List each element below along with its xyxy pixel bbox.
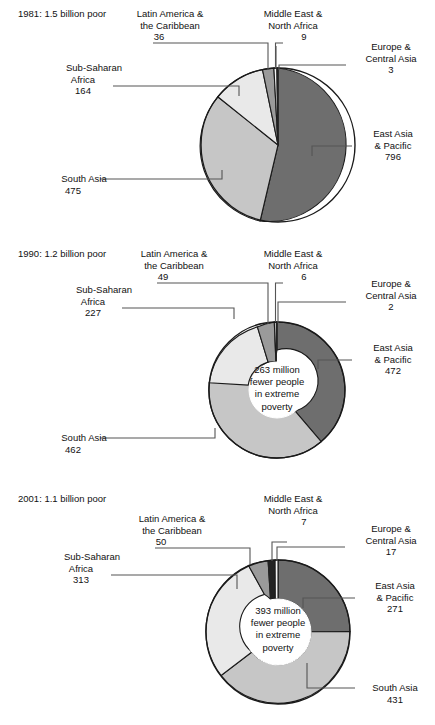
pie-chart-panel-1990: 1990: 1.2 billion poor [0, 240, 435, 485]
label-latin-america-line1-2001: Latin America & [122, 513, 222, 525]
label-south-asia-line1-2001: South Asia [356, 682, 434, 694]
center-note-line2-1990: fewer people [227, 376, 327, 388]
label-latin-america-value-1981: 36 [98, 31, 220, 43]
label-sub-saharan-line2-1981: Africa [26, 74, 140, 86]
label-latin-america-1990: Latin America & the Caribbean 49 [124, 248, 224, 283]
label-sub-saharan-line2-2001: Africa [24, 563, 138, 575]
label-middle-east-line2-1981: North Africa [248, 20, 338, 32]
label-sub-saharan-line1-1990: Sub-Saharan [58, 284, 150, 296]
label-europe-line1-2001: Europe & [348, 523, 434, 535]
label-europe-central-asia-2001: Europe & Central Asia 17 [348, 523, 434, 558]
label-south-asia-1990: South Asia 462 [38, 432, 130, 455]
label-south-asia-1981: South Asia 475 [38, 173, 130, 196]
label-europe-line2-1981: Central Asia [348, 53, 434, 65]
label-east-asia-value-1981: 796 [354, 151, 432, 163]
label-east-asia-value-2001: 271 [356, 603, 434, 615]
pie-chart-panel-1981: 1981: 1.5 billion poor [0, 0, 435, 240]
slice-middle-east-north-africa-2001[interactable] [275, 560, 278, 599]
label-south-asia-value-2001: 431 [356, 694, 434, 706]
label-east-asia-1990: East Asia & Pacific 472 [354, 342, 432, 377]
label-sub-saharan-value-1990: 227 [36, 307, 150, 319]
label-latin-america-line1-1981: Latin America & [120, 8, 220, 20]
label-south-asia-line1-1981: South Asia [38, 173, 130, 185]
label-latin-america-line2-1981: the Caribbean [120, 20, 220, 32]
label-south-asia-2001: South Asia 431 [356, 682, 434, 705]
center-note-line1-1990: 263 million [227, 364, 327, 376]
label-europe-value-1990: 2 [348, 301, 434, 313]
center-note-line2-2001: fewer people [228, 617, 328, 629]
label-latin-america-value-2001: 50 [100, 536, 222, 548]
center-note-line3-2001: in extreme [228, 629, 328, 641]
center-note-line4-2001: poverty [228, 642, 328, 654]
label-middle-east-2001: Middle East & North Africa 7 [248, 493, 338, 528]
label-east-asia-line1-1990: East Asia [354, 342, 432, 354]
label-east-asia-line1-2001: East Asia [356, 580, 434, 592]
center-note-line3-1990: in extreme [227, 388, 327, 400]
label-east-asia-line2-2001: & Pacific [356, 592, 434, 604]
label-europe-line2-2001: Central Asia [348, 535, 434, 547]
label-south-asia-line1-1990: South Asia [38, 432, 130, 444]
label-south-asia-value-1990: 462 [16, 444, 130, 456]
label-east-asia-line2-1981: & Pacific [354, 140, 432, 152]
label-sub-saharan-value-1981: 164 [26, 85, 140, 97]
label-europe-central-asia-1981: Europe & Central Asia 3 [348, 41, 434, 76]
label-sub-saharan-2001: Sub-Saharan Africa 313 [46, 551, 138, 586]
label-sub-saharan-line1-2001: Sub-Saharan [46, 551, 138, 563]
label-middle-east-line1-1981: Middle East & [248, 8, 338, 20]
label-middle-east-1981: Middle East & North Africa 9 [248, 8, 338, 43]
label-sub-saharan-1981: Sub-Saharan Africa 164 [48, 62, 140, 97]
label-middle-east-value-1990: 6 [270, 271, 338, 283]
label-europe-line1-1990: Europe & [348, 278, 434, 290]
label-middle-east-line2-1990: North Africa [248, 260, 338, 272]
label-middle-east-line2-2001: North Africa [248, 505, 338, 517]
label-middle-east-1990: Middle East & North Africa 6 [248, 248, 338, 283]
label-europe-value-2001: 17 [348, 546, 434, 558]
label-europe-value-1981: 3 [348, 64, 434, 76]
center-note-line1-2001: 393 million [228, 605, 328, 617]
label-sub-saharan-line1-1981: Sub-Saharan [48, 62, 140, 74]
pie-1981-slices [200, 68, 355, 222]
label-sub-saharan-value-2001: 313 [24, 574, 138, 586]
label-latin-america-line1-1990: Latin America & [124, 248, 224, 260]
label-east-asia-line1-1981: East Asia [354, 128, 432, 140]
center-note-line4-1990: poverty [227, 401, 327, 413]
label-middle-east-line1-1990: Middle East & [248, 248, 338, 260]
label-east-asia-2001: East Asia & Pacific 271 [356, 580, 434, 615]
label-europe-central-asia-1990: Europe & Central Asia 2 [348, 278, 434, 313]
center-note-2001: 393 million fewer people in extreme pove… [228, 605, 328, 654]
label-east-asia-line2-1990: & Pacific [354, 354, 432, 366]
label-europe-line1-1981: Europe & [348, 41, 434, 53]
label-europe-line2-1990: Central Asia [348, 290, 434, 302]
label-east-asia-value-1990: 472 [354, 365, 432, 377]
label-latin-america-value-1990: 49 [102, 271, 224, 283]
label-latin-america-line2-2001: the Caribbean [122, 525, 222, 537]
label-latin-america-2001: Latin America & the Caribbean 50 [122, 513, 222, 548]
slice-europe-central-asia-1990[interactable] [276, 322, 277, 362]
label-latin-america-line2-1990: the Caribbean [124, 260, 224, 272]
pie-chart-panel-2001: 2001: 1.1 billion poor [0, 485, 435, 725]
label-south-asia-value-1981: 475 [16, 185, 130, 197]
label-middle-east-value-2001: 7 [270, 516, 338, 528]
label-middle-east-value-1981: 9 [270, 31, 338, 43]
label-latin-america-1981: Latin America & the Caribbean 36 [120, 8, 220, 43]
center-note-1990: 263 million fewer people in extreme pove… [227, 364, 327, 413]
label-middle-east-line1-2001: Middle East & [248, 493, 338, 505]
label-east-asia-1981: East Asia & Pacific 796 [354, 128, 432, 163]
label-sub-saharan-1990: Sub-Saharan Africa 227 [58, 284, 150, 319]
label-sub-saharan-line2-1990: Africa [36, 296, 150, 308]
